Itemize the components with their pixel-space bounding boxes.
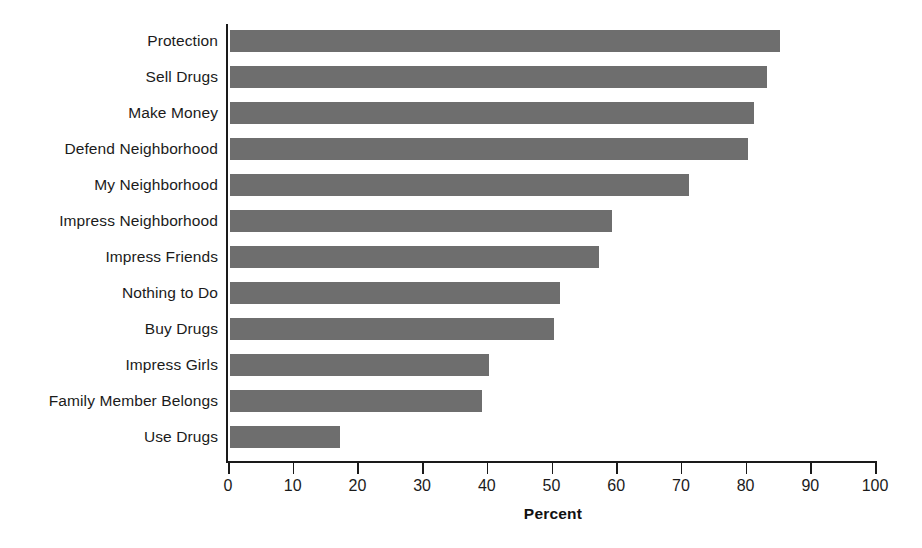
bar-row: Protection	[0, 30, 922, 66]
bar-row: Family Member Belongs	[0, 390, 922, 426]
tick-label: 10	[284, 477, 302, 495]
bar-row: Sell Drugs	[0, 66, 922, 102]
category-label: Impress Friends	[0, 246, 218, 268]
bar-row: Defend Neighborhood	[0, 138, 922, 174]
bar-chart: ProtectionSell DrugsMake MoneyDefend Nei…	[0, 0, 922, 548]
category-label: My Neighborhood	[0, 174, 218, 196]
tick-mark	[746, 463, 748, 474]
bar-row: Use Drugs	[0, 426, 922, 462]
x-axis-title: Percent	[0, 505, 922, 523]
bar	[230, 30, 780, 52]
tick-mark	[228, 463, 230, 474]
bar	[230, 102, 754, 124]
bar	[230, 426, 340, 448]
tick-label: 80	[737, 477, 755, 495]
tick-mark	[875, 463, 877, 474]
category-label: Use Drugs	[0, 426, 218, 448]
tick-label: 40	[478, 477, 496, 495]
bar-row: Make Money	[0, 102, 922, 138]
tick-label: 20	[348, 477, 366, 495]
category-label: Defend Neighborhood	[0, 138, 218, 160]
tick-label: 30	[413, 477, 431, 495]
tick-mark	[616, 463, 618, 474]
bar-row: Nothing to Do	[0, 282, 922, 318]
bar	[230, 354, 489, 376]
bar-row: Impress Girls	[0, 354, 922, 390]
tick-label: 60	[607, 477, 625, 495]
bar-row: Impress Neighborhood	[0, 210, 922, 246]
category-label: Sell Drugs	[0, 66, 218, 88]
category-label: Make Money	[0, 102, 218, 124]
tick-mark	[487, 463, 489, 474]
bar	[230, 210, 612, 232]
category-label: Nothing to Do	[0, 282, 218, 304]
bar	[230, 318, 554, 340]
bar	[230, 246, 599, 268]
category-label: Impress Neighborhood	[0, 210, 218, 232]
bar-row: My Neighborhood	[0, 174, 922, 210]
bar	[230, 390, 482, 412]
bar-row: Buy Drugs	[0, 318, 922, 354]
tick-mark	[681, 463, 683, 474]
tick-label: 100	[862, 477, 889, 495]
tick-mark	[552, 463, 554, 474]
bar	[230, 282, 560, 304]
tick-mark	[357, 463, 359, 474]
x-axis-title-label: Percent	[524, 505, 582, 523]
tick-mark	[422, 463, 424, 474]
category-label: Impress Girls	[0, 354, 218, 376]
category-label: Family Member Belongs	[0, 390, 218, 412]
tick-label: 0	[224, 477, 233, 495]
bar-row: Impress Friends	[0, 246, 922, 282]
bar	[230, 138, 748, 160]
tick-mark	[293, 463, 295, 474]
tick-label: 90	[801, 477, 819, 495]
category-label: Protection	[0, 30, 218, 52]
bar-rows: ProtectionSell DrugsMake MoneyDefend Nei…	[0, 0, 922, 437]
bar	[230, 174, 689, 196]
category-label: Buy Drugs	[0, 318, 218, 340]
tick-label: 70	[672, 477, 690, 495]
tick-label: 50	[543, 477, 561, 495]
bar	[230, 66, 767, 88]
tick-mark	[810, 463, 812, 474]
